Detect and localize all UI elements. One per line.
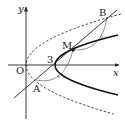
parabola-diagram: y x O 3 A B M xyxy=(0,0,125,123)
x-axis-label: x xyxy=(113,67,119,78)
dashed-parabola xyxy=(26,14,121,114)
point-b-label: B xyxy=(99,7,106,18)
x-intercept-label: 3 xyxy=(47,54,53,65)
origin-label: O xyxy=(16,65,24,76)
y-axis-label: y xyxy=(17,3,24,14)
line-ab xyxy=(14,10,117,98)
point-a-label: A xyxy=(32,83,41,94)
point-m-label: M xyxy=(62,40,72,51)
